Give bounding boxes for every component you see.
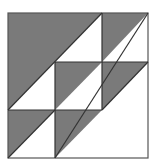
quilt-block-diagram bbox=[0, 0, 159, 166]
